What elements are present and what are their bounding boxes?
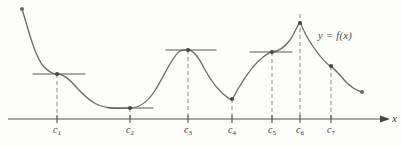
curve-label: y = f(x) [318,30,352,41]
horizontal-tangent-segments [33,50,292,108]
tick-label-c5: c5 [268,124,276,137]
x-axis-label: x [392,112,397,124]
point-marker-c6 [298,21,302,25]
x-axis [8,116,390,123]
critical-point-markers [55,21,333,110]
point-marker-c5 [270,50,274,54]
tick-label-subscript: 1 [57,129,61,137]
endpoint-marker-left-endpoint [20,7,24,11]
tick-label-c3: c3 [184,124,192,137]
tick-label-subscript: 6 [300,129,304,137]
tick-label-subscript: 2 [130,129,134,137]
x-axis-arrowhead [380,116,390,123]
function-critical-points-figure: c1c2c3c4c5c6c7 y = f(x) x [0,0,402,146]
tick-label-subscript: 3 [188,129,192,137]
tick-label-subscript: 5 [272,129,276,137]
tick-label-c2: c2 [126,124,134,137]
point-marker-c4 [230,97,234,101]
tick-label-c6: c6 [296,124,304,137]
dashed-guide-lines [57,14,331,119]
tick-label-subscript: 7 [331,129,335,137]
point-marker-c1 [55,72,59,76]
point-marker-c7 [329,64,333,68]
tick-label-c1: c1 [53,124,61,137]
tick-label-subscript: 4 [232,129,236,137]
point-marker-c2 [128,106,132,110]
tick-label-c4: c4 [228,124,236,137]
endpoint-marker-right-endpoint [360,90,364,94]
function-curve [22,9,362,108]
tick-label-c7: c7 [327,124,335,137]
point-marker-c3 [186,48,190,52]
